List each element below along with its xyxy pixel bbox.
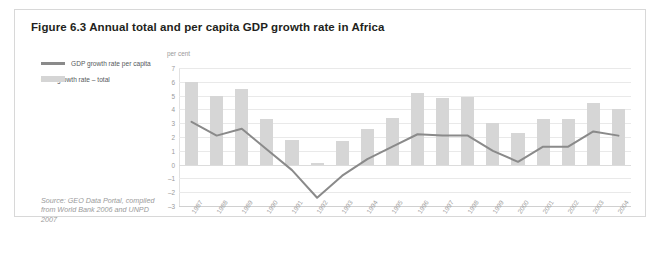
plot-region: 76543210–1–2–3 1987198819891990199119921…: [179, 68, 631, 206]
y-tick-label: 7: [171, 65, 175, 72]
y-tick-label: 1: [171, 147, 175, 154]
y-tick-label: –3: [168, 203, 175, 210]
legend-swatch-bar-icon: [41, 76, 65, 82]
figure-card: Figure 6.3 Annual total and per capita G…: [14, 9, 646, 217]
legend-item-total: GDP growth rate – total: [41, 73, 171, 85]
legend-label-per-capita: GDP growth rate per capita: [71, 60, 151, 67]
y-tick-label: 0: [171, 161, 175, 168]
chart-area: per cent 76543210–1–2–3 1987198819891990…: [165, 50, 635, 210]
legend-item-per-capita: GDP growth rate per capita: [41, 57, 171, 69]
y-tick-label: 5: [171, 92, 175, 99]
y-tick-label: 6: [171, 78, 175, 85]
y-tick-label: –1: [168, 175, 175, 182]
page-title: Figure 6.3 Annual total and per capita G…: [31, 21, 385, 33]
y-tick-label: 2: [171, 134, 175, 141]
y-axis-label: per cent: [167, 50, 190, 57]
chart-legend: GDP growth rate per capita GDP growth ra…: [41, 57, 171, 89]
y-tick-label: 3: [171, 120, 175, 127]
per-capita-line-path: [192, 122, 619, 198]
legend-swatch-line-icon: [41, 62, 65, 65]
line-series: [179, 68, 631, 206]
y-tick-label: 4: [171, 106, 175, 113]
source-note: Source: GEO Data Portal, compiled from W…: [41, 196, 166, 224]
y-tick-label: –2: [168, 189, 175, 196]
